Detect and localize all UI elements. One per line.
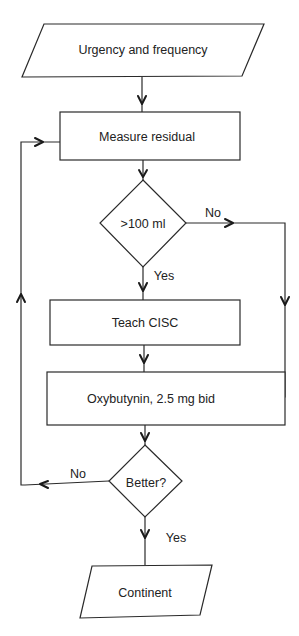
- end-node-label: Continent: [118, 586, 172, 600]
- decision1-yes-label: Yes: [154, 269, 174, 283]
- decision2-node-label: Better?: [126, 476, 166, 490]
- measure-node-label: Measure residual: [99, 130, 195, 144]
- teach-node-label: Teach CISC: [112, 316, 179, 330]
- decision1-node-label: >100 ml: [121, 217, 166, 231]
- decision2-yes-label: Yes: [166, 531, 186, 545]
- decision2-no-label: No: [70, 467, 86, 481]
- start-node-label: Urgency and frequency: [78, 43, 207, 57]
- decision1-no-label: No: [205, 206, 221, 220]
- oxy-node-label: Oxybutynin, 2.5 mg bid: [87, 392, 215, 406]
